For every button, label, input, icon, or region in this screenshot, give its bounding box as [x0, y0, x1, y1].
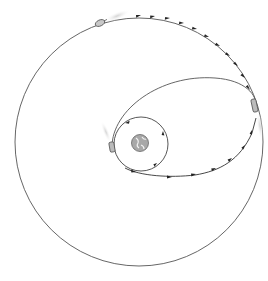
transfer-orbit: [112, 78, 256, 177]
arrow-icon: [250, 130, 252, 135]
arrow-icon: [215, 43, 220, 46]
arrow-icon: [179, 21, 184, 24]
earth-icon: [132, 135, 149, 152]
spacecraft-target: [94, 7, 131, 28]
arrow-icon: [241, 145, 245, 150]
arrow-icon: [150, 16, 155, 19]
arrow-icon: [165, 17, 170, 20]
arrow-icon: [136, 15, 141, 18]
spacecraft-apogee: [251, 99, 265, 141]
arrow-icon: [162, 131, 165, 136]
orbit-transfer-diagram: [0, 0, 268, 281]
arrow-icon: [192, 27, 197, 30]
spacecraft-icon: [251, 99, 259, 113]
arrow-icon: [204, 34, 209, 37]
spacecraft-icon: [94, 18, 106, 28]
spacecraft-parking: [99, 120, 116, 153]
transfer-orbit-arrows: [131, 130, 252, 178]
